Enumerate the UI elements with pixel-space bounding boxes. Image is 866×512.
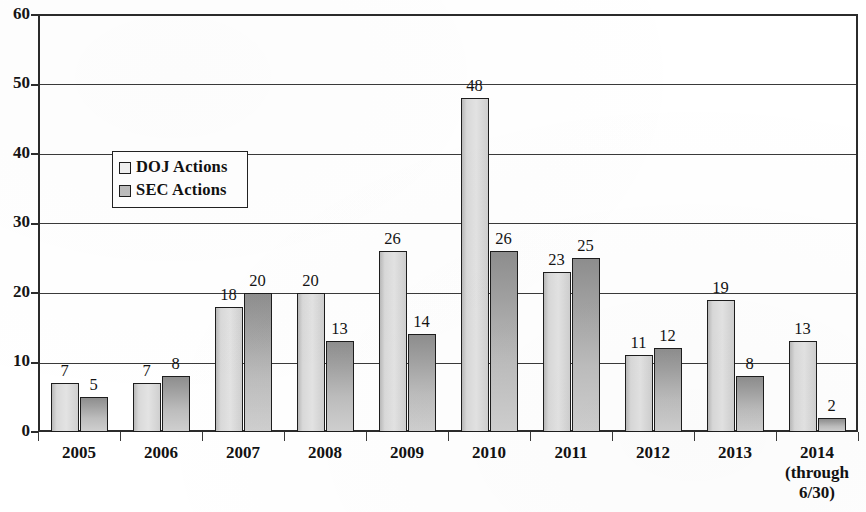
bar-group: 132 — [776, 14, 858, 432]
x-axis-tick — [366, 432, 367, 441]
bar-group: 1112 — [612, 14, 694, 432]
y-tick-label-20: 20 — [2, 283, 30, 300]
bar-sec-2010[interactable]: 26 — [490, 251, 518, 432]
bar-value-label: 8 — [745, 354, 753, 374]
x-axis-label: 2010 — [448, 443, 530, 463]
legend-item-doj[interactable]: DOJ Actions — [119, 156, 241, 179]
y-tick-label-50: 50 — [2, 74, 30, 91]
x-axis-ticks — [38, 432, 858, 442]
bar-doj-2006[interactable]: 7 — [133, 383, 161, 432]
bar-sec-2007[interactable]: 20 — [244, 293, 272, 432]
bar-doj-2014[interactable]: 13 — [789, 341, 817, 432]
x-axis-tick — [694, 432, 695, 441]
legend-label-sec: SEC Actions — [136, 182, 227, 199]
bar-value-label: 5 — [89, 375, 97, 395]
legend-swatch-icon-doj — [119, 162, 131, 174]
x-axis-labels: 2005200620072008200920102011201220132014… — [38, 443, 858, 509]
x-axis-tick — [202, 432, 203, 441]
bar-value-label: 13 — [331, 319, 348, 339]
bar-sec-2009[interactable]: 14 — [408, 334, 436, 432]
bar-value-label: 12 — [659, 326, 676, 346]
y-tick-label-60: 60 — [2, 5, 30, 22]
bar-value-label: 2 — [827, 396, 835, 416]
bar-group: 75 — [38, 14, 120, 432]
y-tick-label-40: 40 — [2, 144, 30, 161]
y-tick-label-0: 0 — [2, 422, 30, 439]
x-axis-label: 2005 — [38, 443, 120, 463]
bar-sec-2013[interactable]: 8 — [736, 376, 764, 432]
bar-value-label: 20 — [302, 271, 319, 291]
bar-group: 198 — [694, 14, 776, 432]
x-axis-label: 2008 — [284, 443, 366, 463]
bar-value-label: 11 — [631, 333, 647, 353]
bar-group: 78 — [120, 14, 202, 432]
x-axis-tick — [448, 432, 449, 441]
x-axis-label: 2011 — [530, 443, 612, 463]
x-axis-label: 2014 (through 6/30) — [776, 443, 858, 503]
bar-sec-2012[interactable]: 12 — [654, 348, 682, 432]
bar-sec-2005[interactable]: 5 — [80, 397, 108, 432]
x-axis-tick — [858, 432, 859, 441]
bar-sec-2008[interactable]: 13 — [326, 341, 354, 432]
x-axis-tick — [284, 432, 285, 441]
chart-legend: DOJ Actions SEC Actions — [112, 151, 248, 208]
bar-doj-2012[interactable]: 11 — [625, 355, 653, 432]
x-axis-label: 2013 — [694, 443, 776, 463]
bar-value-label: 25 — [577, 236, 594, 256]
bar-sec-2006[interactable]: 8 — [162, 376, 190, 432]
bar-group: 1820 — [202, 14, 284, 432]
legend-swatch-icon-sec — [119, 185, 131, 197]
bar-chart: 60 50 40 30 20 10 0 75781820201326144826… — [0, 0, 866, 512]
bar-value-label: 18 — [220, 285, 237, 305]
bar-value-label: 14 — [413, 312, 430, 332]
bar-value-label: 23 — [548, 250, 565, 270]
bars-layer: 7578182020132614482623251112198132 — [38, 14, 858, 432]
bar-doj-2007[interactable]: 18 — [215, 307, 243, 432]
bar-value-label: 7 — [142, 361, 150, 381]
x-axis-tick — [530, 432, 531, 441]
bar-group: 2614 — [366, 14, 448, 432]
bar-doj-2005[interactable]: 7 — [51, 383, 79, 432]
x-axis-label: 2007 — [202, 443, 284, 463]
x-axis-label: 2012 — [612, 443, 694, 463]
bar-group: 4826 — [448, 14, 530, 432]
bar-value-label: 26 — [384, 229, 401, 249]
x-axis-tick — [38, 432, 39, 441]
x-axis-tick — [120, 432, 121, 441]
bar-group: 2013 — [284, 14, 366, 432]
bar-value-label: 7 — [60, 361, 68, 381]
bar-doj-2011[interactable]: 23 — [543, 272, 571, 432]
y-tick-label-30: 30 — [2, 213, 30, 230]
bar-value-label: 13 — [794, 319, 811, 339]
y-tick-label-10: 10 — [2, 352, 30, 369]
bar-doj-2008[interactable]: 20 — [297, 293, 325, 432]
bar-value-label: 19 — [712, 278, 729, 298]
bar-doj-2013[interactable]: 19 — [707, 300, 735, 432]
bar-doj-2010[interactable]: 48 — [461, 98, 489, 432]
x-axis-label: 2006 — [120, 443, 202, 463]
x-axis-tick — [776, 432, 777, 441]
bar-sec-2014[interactable]: 2 — [818, 418, 846, 432]
bar-doj-2009[interactable]: 26 — [379, 251, 407, 432]
bar-value-label: 48 — [466, 76, 483, 96]
legend-label-doj: DOJ Actions — [136, 159, 228, 176]
bar-value-label: 8 — [171, 354, 179, 374]
x-axis-label: 2009 — [366, 443, 448, 463]
bar-group: 2325 — [530, 14, 612, 432]
bar-sec-2011[interactable]: 25 — [572, 258, 600, 432]
bar-value-label: 26 — [495, 229, 512, 249]
bar-value-label: 20 — [249, 271, 266, 291]
legend-item-sec[interactable]: SEC Actions — [119, 179, 241, 202]
x-axis-tick — [612, 432, 613, 441]
